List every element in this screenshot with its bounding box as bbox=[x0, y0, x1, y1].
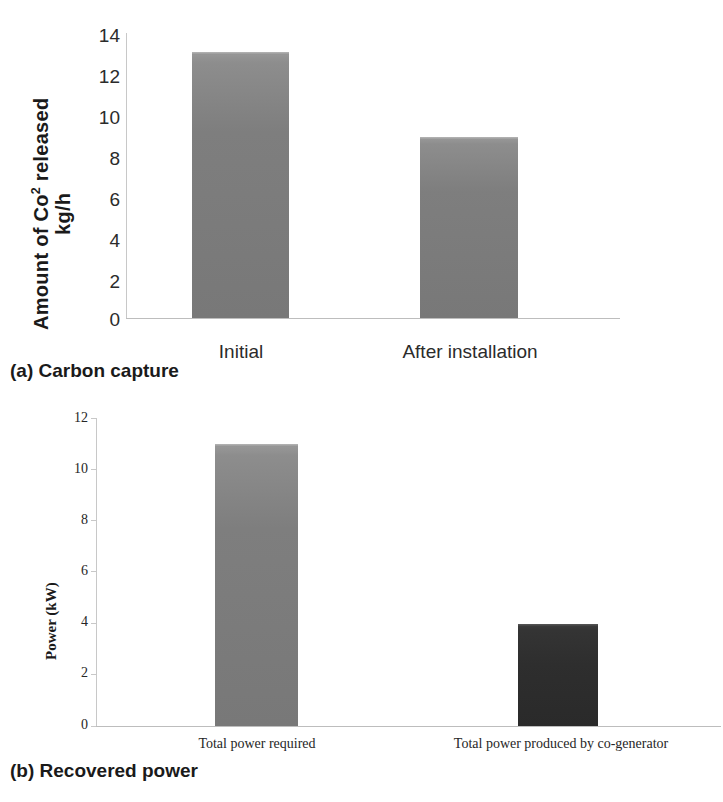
panel-a-y-axis-title: Amount of Co2 released kg/h bbox=[30, 98, 74, 330]
panel-a-ytick-14: 14 bbox=[88, 26, 120, 45]
panel-b-ytick-0: 0 bbox=[62, 718, 88, 732]
panel-a-category-label-initial: Initial bbox=[170, 342, 312, 363]
panel-a-ytick-2: 2 bbox=[88, 272, 120, 291]
panel-b-caption: (b) Recovered power bbox=[10, 760, 198, 782]
panel-b-ytick-2: 2 bbox=[62, 666, 88, 680]
panel-recovered-power: Power (kW) 12 10 8 6 4 2 0 Total power r… bbox=[0, 400, 723, 802]
panel-b-ytick-4: 4 bbox=[62, 615, 88, 629]
panel-a-ytick-12: 12 bbox=[88, 67, 120, 86]
panel-a-ytick-8: 8 bbox=[88, 149, 120, 168]
panel-a-y-axis-title-line1: Amount of Co2 released bbox=[30, 98, 52, 330]
panel-b-x-axis-line bbox=[96, 726, 721, 727]
panel-a-y-axis-title-text: Amount of Co bbox=[30, 194, 52, 330]
panel-a-ytick-10: 10 bbox=[88, 108, 120, 127]
panel-b-bar-total-power-produced bbox=[518, 624, 598, 726]
panel-b-ytick-8: 8 bbox=[62, 513, 88, 527]
panel-b-tickmark-0 bbox=[91, 726, 96, 727]
panel-b-category-label-total-power-required: Total power required bbox=[176, 736, 338, 751]
panel-a-y-axis-title-line2: kg/h bbox=[53, 98, 74, 330]
panel-a-category-label-after-installation: After installation bbox=[385, 342, 555, 363]
panel-a-ytick-4: 4 bbox=[88, 231, 120, 250]
panel-b-y-axis-line bbox=[96, 418, 97, 726]
panel-a-caption: (a) Carbon capture bbox=[10, 360, 179, 382]
panel-a-y-axis-title-superscript: 2 bbox=[29, 187, 43, 194]
panel-a-y-axis-line bbox=[126, 33, 127, 319]
panel-a-x-axis-line bbox=[126, 318, 620, 319]
panel-a-ytick-6: 6 bbox=[88, 190, 120, 209]
bar-highlight bbox=[420, 137, 518, 140]
panel-a-y-axis-title-tail: released bbox=[30, 98, 52, 187]
panel-b-tickmark-4 bbox=[91, 623, 96, 624]
bar-highlight bbox=[215, 444, 298, 447]
panel-b-ytick-10: 10 bbox=[62, 462, 88, 476]
panel-b-category-label-total-power-produced: Total power produced by co-generator bbox=[419, 736, 703, 751]
bar-highlight bbox=[192, 52, 289, 55]
bar-highlight bbox=[518, 624, 598, 627]
panel-b-y-axis-title: Power (kW) bbox=[44, 582, 60, 660]
panel-b-tickmark-10 bbox=[91, 469, 96, 470]
panel-b-tickmark-12 bbox=[91, 418, 96, 419]
panel-a-bar-after-installation bbox=[420, 137, 518, 318]
panel-b-ytick-6: 6 bbox=[62, 564, 88, 578]
panel-b-tickmark-2 bbox=[91, 674, 96, 675]
panel-carbon-capture: Amount of Co2 released kg/h 14 12 10 8 6… bbox=[0, 0, 723, 400]
panel-a-ytick-0: 0 bbox=[88, 310, 120, 329]
panel-b-bar-total-power-required bbox=[215, 444, 298, 726]
panel-b-ytick-12: 12 bbox=[62, 411, 88, 425]
panel-b-tickmark-8 bbox=[91, 520, 96, 521]
panel-b-tickmark-6 bbox=[91, 571, 96, 572]
panel-a-bar-initial bbox=[192, 52, 289, 318]
